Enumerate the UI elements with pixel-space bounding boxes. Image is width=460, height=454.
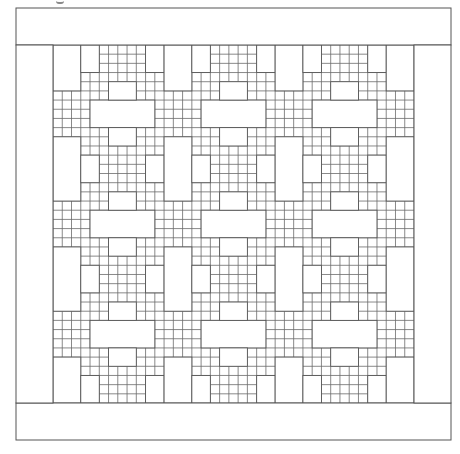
bottom-border <box>16 403 451 440</box>
small-blank-above <box>220 192 248 210</box>
side-blank-right <box>368 265 387 293</box>
side-blank-left <box>303 155 322 183</box>
tall-blank <box>164 357 192 403</box>
wide-blank <box>201 100 266 128</box>
side-blank-left <box>81 375 100 403</box>
tall-blank <box>164 45 192 91</box>
small-blank-below <box>331 238 359 256</box>
tall-blank <box>275 137 303 201</box>
small-blank-above <box>331 82 359 100</box>
wide-blank <box>90 100 155 128</box>
top-border <box>16 8 451 45</box>
small-blank-above <box>109 82 137 100</box>
small-blank-above <box>220 82 248 100</box>
tall-blank <box>53 137 81 201</box>
small-blank-below <box>109 128 137 146</box>
side-blank-left <box>303 265 322 293</box>
tall-blank <box>275 45 303 91</box>
side-blank-right <box>368 45 387 73</box>
small-blank-above <box>331 302 359 320</box>
side-blank-right <box>257 45 276 73</box>
small-blank-below <box>109 238 137 256</box>
tall-blank <box>275 357 303 403</box>
side-blank-left <box>192 155 211 183</box>
side-blank-left <box>192 45 211 73</box>
small-blank-below <box>220 348 248 366</box>
side-blank-left <box>192 375 211 403</box>
tall-blank <box>164 247 192 311</box>
side-blank-right <box>146 265 165 293</box>
small-blank-above <box>220 302 248 320</box>
tall-blank <box>53 357 81 403</box>
small-blank-below <box>331 348 359 366</box>
side-blank-right <box>257 375 276 403</box>
wide-blank <box>90 210 155 238</box>
small-blank-above <box>109 302 137 320</box>
tall-blank <box>53 247 81 311</box>
wide-blank <box>312 210 377 238</box>
side-blank-right <box>368 375 387 403</box>
wide-blank <box>201 320 266 348</box>
tall-blank <box>386 137 414 201</box>
tall-blank <box>53 45 81 91</box>
side-blank-left <box>81 45 100 73</box>
wide-blank <box>312 100 377 128</box>
side-blank-left <box>81 265 100 293</box>
tall-blank <box>164 137 192 201</box>
tall-blank <box>386 357 414 403</box>
small-blank-above <box>331 192 359 210</box>
wide-blank <box>201 210 266 238</box>
small-blank-below <box>109 348 137 366</box>
side-blank-left <box>303 45 322 73</box>
tall-blank <box>386 45 414 91</box>
small-blank-below <box>220 128 248 146</box>
tall-blank <box>275 247 303 311</box>
side-blank-right <box>257 155 276 183</box>
side-blank-right <box>257 265 276 293</box>
small-blank-below <box>331 128 359 146</box>
side-blank-right <box>146 45 165 73</box>
tall-blank <box>386 247 414 311</box>
side-blank-right <box>146 155 165 183</box>
side-blank-left <box>81 155 100 183</box>
small-blank-below <box>220 238 248 256</box>
wide-blank <box>90 320 155 348</box>
side-blank-right <box>368 155 387 183</box>
small-blank-above <box>109 192 137 210</box>
wide-blank <box>312 320 377 348</box>
side-blank-right <box>146 375 165 403</box>
right-border <box>414 45 451 403</box>
left-border <box>16 45 53 403</box>
quilt-pattern <box>0 0 460 454</box>
side-blank-left <box>192 265 211 293</box>
side-blank-left <box>303 375 322 403</box>
